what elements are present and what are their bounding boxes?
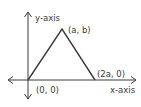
y-axis [25,12,32,99]
x-axis-label: x-axis [110,85,136,95]
origin-label: (0, 0) [36,85,59,95]
triangle-diagram: y-axis (a, b) (2a, 0) (0, 0) x-axis [0,0,141,107]
apex-label: (a, b) [68,25,91,35]
triangle [28,29,95,80]
right-vertex-label: (2a, 0) [97,69,125,79]
y-axis-label: y-axis [35,13,61,23]
